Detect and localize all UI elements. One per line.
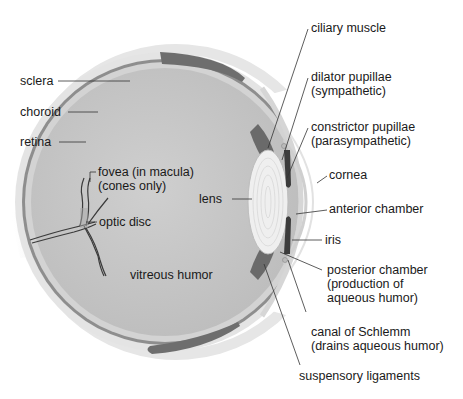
label-sclera: sclera	[20, 74, 53, 88]
label-fovea: fovea (in macula) (cones only)	[98, 165, 194, 193]
canal-of-schlemm-lower	[283, 258, 288, 263]
lens-shape	[248, 150, 288, 254]
label-cornea: cornea	[329, 168, 367, 182]
label-lens: lens	[199, 192, 222, 206]
label-choroid: choroid	[20, 105, 61, 119]
label-retina: retina	[20, 135, 51, 149]
label-optic-disc: optic disc	[99, 215, 151, 229]
label-suspensory-ligaments: suspensory ligaments	[299, 369, 420, 383]
label-posterior-chamber: posterior chamber (production of aqueous…	[327, 263, 428, 305]
label-canal-of-schlemm: canal of Schlemm (drains aqueous humor)	[311, 325, 444, 353]
label-dilator-pupillae: dilator pupillae (sympathetic)	[311, 70, 392, 98]
label-constrictor-pupillae: constrictor pupillae (parasympathetic)	[311, 120, 415, 148]
label-ciliary-muscle: ciliary muscle	[311, 21, 386, 35]
label-anterior-chamber: anterior chamber	[329, 202, 424, 216]
label-vitreous-humor: vitreous humor	[130, 268, 213, 282]
label-iris: iris	[325, 233, 341, 247]
